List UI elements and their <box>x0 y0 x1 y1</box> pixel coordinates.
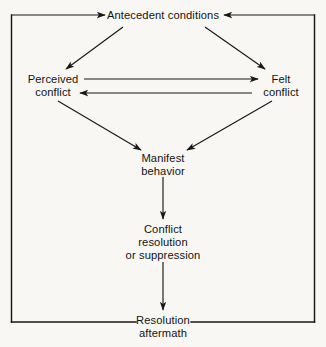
node-label-aftermath-line2: aftermath <box>139 327 187 339</box>
node-manifest-behavior: Manifest behavior <box>141 152 185 177</box>
node-antecedent-conditions: Antecedent conditions <box>107 9 219 21</box>
node-resolution-aftermath: Resolution aftermath <box>136 314 190 339</box>
edge-antecedent-to-perceived <box>66 27 123 69</box>
node-label-resolution-line2: resolution <box>138 236 188 248</box>
node-label-resolution-line3: or suppression <box>126 249 201 261</box>
node-label-antecedent-conditions: Antecedent conditions <box>107 9 219 21</box>
node-label-felt-line2: conflict <box>263 86 299 98</box>
node-label-aftermath-line1: Resolution <box>136 314 190 326</box>
node-label-resolution-line1: Conflict <box>144 223 183 235</box>
node-felt-conflict: Felt conflict <box>263 73 299 98</box>
node-label-perceived-line2: conflict <box>35 86 71 98</box>
diagram-canvas: Antecedent conditions Perceived conflict… <box>0 0 326 347</box>
conflict-process-diagram: Antecedent conditions Perceived conflict… <box>0 0 326 347</box>
edge-felt-to-manifest <box>187 101 272 150</box>
node-perceived-conflict: Perceived conflict <box>28 73 79 98</box>
node-label-felt-line1: Felt <box>271 73 291 85</box>
edge-antecedent-to-felt <box>205 27 265 69</box>
edge-perceived-to-manifest <box>58 101 141 150</box>
node-label-manifest-line2: behavior <box>141 165 185 177</box>
node-conflict-resolution: Conflict resolution or suppression <box>126 223 201 261</box>
node-label-perceived-line1: Perceived <box>28 73 79 85</box>
node-label-manifest-line1: Manifest <box>141 152 185 164</box>
